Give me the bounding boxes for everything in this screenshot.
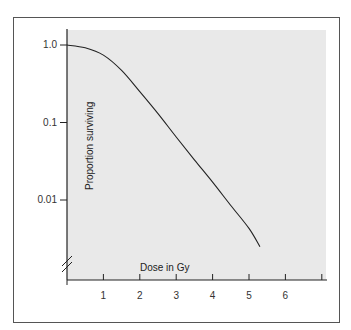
- x-tick-label: 5: [246, 290, 252, 301]
- x-axis-label: Dose in Gy: [140, 262, 189, 273]
- x-tick-label: 2: [137, 290, 143, 301]
- y-tick-label: 0.01: [38, 194, 58, 205]
- y-axis-label: Proportion surviving: [84, 102, 95, 190]
- x-tick-label: 1: [101, 290, 107, 301]
- y-tick-label: 0.1: [43, 117, 57, 128]
- x-tick-label: 6: [283, 290, 289, 301]
- x-tick-label: 3: [173, 290, 179, 301]
- y-ticks: 1.00.10.01: [38, 39, 67, 205]
- plot-background: [67, 30, 326, 280]
- y-tick-label: 1.0: [43, 39, 57, 50]
- survival-chart: 1.00.10.01 123456 Dose in Gy Proportion …: [0, 0, 351, 330]
- x-tick-label: 4: [210, 290, 216, 301]
